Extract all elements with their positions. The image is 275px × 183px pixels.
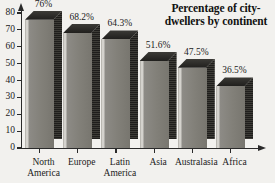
- y-axis-tick: [17, 63, 22, 64]
- y-axis-tick: [17, 29, 22, 30]
- y-axis-tick: [17, 131, 22, 132]
- chart-container: Percentage of city- dwellers by continen…: [0, 0, 275, 183]
- x-axis-label-line: America: [14, 168, 73, 179]
- bar-side-face: [53, 11, 62, 139]
- x-axis-tick: [77, 148, 78, 153]
- y-axis-tick-label: 70: [0, 25, 15, 35]
- y-axis-tick-label: 60: [0, 42, 15, 52]
- bar-front-face: [140, 61, 169, 148]
- x-axis-tick: [154, 148, 155, 153]
- bar-side-face: [168, 52, 177, 139]
- bar-front-face: [63, 33, 92, 148]
- bar: [178, 0, 206, 148]
- x-axis-label-line: America: [90, 168, 149, 179]
- bar-front-face: [25, 20, 54, 148]
- x-axis-category-label: Africa: [205, 157, 264, 168]
- x-axis-tick: [192, 148, 193, 153]
- x-axis-arrow-icon: [258, 145, 266, 151]
- y-axis-tick-label: 40: [0, 76, 15, 86]
- bar-value-label: 64.3%: [97, 18, 142, 28]
- y-axis-tick-label: 0: [0, 143, 15, 153]
- bar: [140, 0, 168, 148]
- bar-side-face: [244, 77, 253, 139]
- bar-value-label: 47.5%: [174, 47, 219, 57]
- y-axis-tick: [17, 147, 22, 148]
- y-axis-tick-label: 10: [0, 126, 15, 136]
- y-axis-tick-label: 20: [0, 109, 15, 119]
- bar-front-face: [101, 39, 130, 148]
- x-axis-tick: [115, 148, 116, 153]
- x-axis-label-line: Africa: [205, 157, 264, 168]
- plot-area: 01020304050607080 76%68.2%64.3%51.6%47.5…: [0, 0, 275, 183]
- bar-front-face: [178, 68, 207, 148]
- x-axis-line: [21, 148, 261, 149]
- bar-side-face: [91, 24, 100, 139]
- bar: [25, 0, 53, 148]
- bar-value-label: 76%: [21, 0, 66, 9]
- x-axis-tick: [230, 148, 231, 153]
- bar: [63, 0, 91, 148]
- x-axis-tick: [39, 148, 40, 153]
- y-axis-tick: [17, 12, 22, 13]
- y-axis-tick-label: 80: [0, 8, 15, 18]
- y-axis-tick-label: 30: [0, 92, 15, 102]
- y-axis-tick: [17, 46, 22, 47]
- y-axis-tick: [17, 80, 22, 81]
- y-axis-tick-label: 50: [0, 59, 15, 69]
- y-axis-tick: [17, 114, 22, 115]
- bar-front-face: [216, 86, 245, 148]
- bar-value-label: 36.5%: [212, 65, 257, 75]
- y-axis-tick: [17, 97, 22, 98]
